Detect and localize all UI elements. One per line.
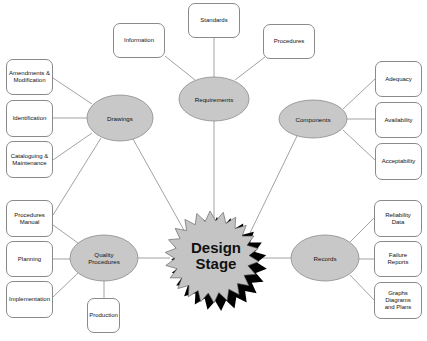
box-reliability-data[interactable]: Reliability Data [374, 200, 422, 237]
box-adequacy[interactable]: Adequacy [375, 61, 422, 97]
box-production[interactable]: Production [87, 298, 120, 333]
hub-label-components: Components [279, 109, 347, 129]
hub-label-quality-procedures: Quality Procedures [70, 248, 138, 268]
box-information[interactable]: Information [113, 23, 165, 58]
center-label-design-stage: Design Stage [168, 236, 264, 276]
box-procedures[interactable]: Procedures [263, 24, 315, 59]
box-amendments-modification[interactable]: Amendments & Modification [6, 59, 53, 95]
box-identification[interactable]: Identification [6, 100, 53, 137]
hub-label-requirements: Requirements [179, 89, 249, 109]
hub-label-drawings: Drawings [87, 108, 153, 128]
box-availability[interactable]: Availability [375, 102, 422, 138]
hub-label-records: Records [291, 248, 359, 268]
box-graphs-diagrams-plans[interactable]: Graphs Diagrams and Plans [374, 282, 422, 319]
box-standards[interactable]: Standards [188, 3, 240, 38]
box-acceptability[interactable]: Acceptability [375, 143, 422, 180]
box-failure-reports[interactable]: Failure Reports [374, 241, 422, 277]
box-implementation[interactable]: Implementation [6, 281, 53, 318]
box-cataloguing-maintenance[interactable]: Cataloguing & Maintenance [6, 141, 53, 178]
box-procedures-manual[interactable]: Procedures Manual [6, 200, 53, 237]
diagram-canvas [0, 0, 427, 341]
box-planning[interactable]: Planning [6, 241, 53, 277]
